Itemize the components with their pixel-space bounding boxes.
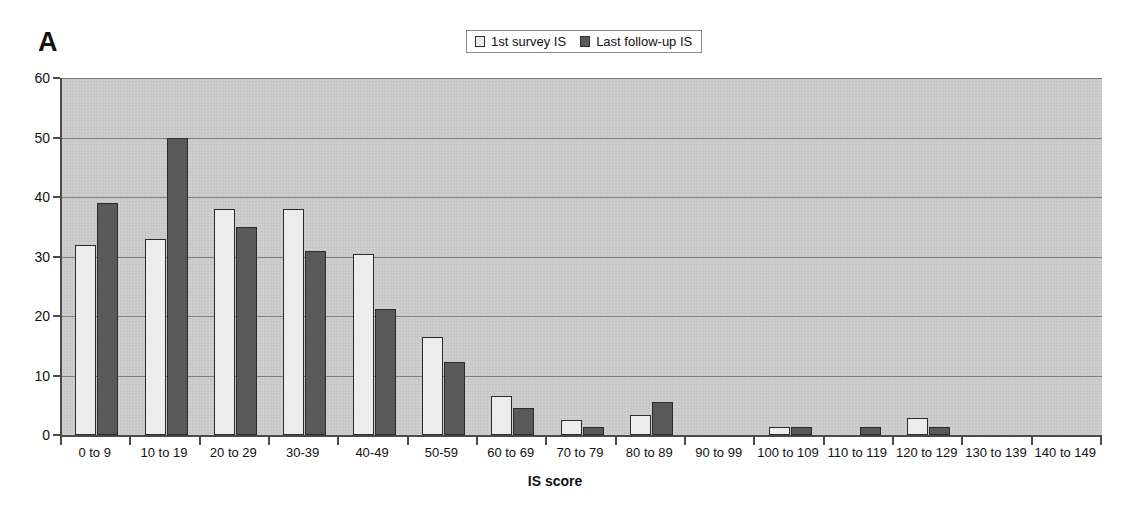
x-tick-mark [1031, 437, 1033, 445]
bar-first-survey [422, 337, 443, 435]
bar-last-followup [513, 408, 534, 435]
bar-first-survey [145, 239, 166, 435]
figure-panel-a: A 1st survey IS Last follow-up IS IS sco… [0, 0, 1131, 518]
bar-last-followup [860, 427, 881, 435]
bar-last-followup [375, 309, 396, 435]
x-tick-label: 30-39 [286, 445, 319, 460]
y-tick-mark [53, 137, 60, 139]
x-tick-label: 140 to 149 [1035, 445, 1096, 460]
x-tick-mark [823, 437, 825, 445]
gridline [62, 197, 1102, 198]
x-tick-mark [615, 437, 617, 445]
x-tick-mark [545, 437, 547, 445]
x-tick-label: 70 to 79 [557, 445, 604, 460]
bar-first-survey [75, 245, 96, 435]
gridline [62, 138, 1102, 139]
x-tick-mark [129, 437, 131, 445]
bar-last-followup [167, 138, 188, 436]
bar-last-followup [97, 203, 118, 435]
x-tick-mark [337, 437, 339, 445]
y-tick-mark [53, 315, 60, 317]
x-tick-label: 130 to 139 [965, 445, 1026, 460]
legend-entry-last-followup: Last follow-up IS [580, 35, 692, 48]
x-tick-label: 0 to 9 [78, 445, 111, 460]
x-tick-mark [684, 437, 686, 445]
x-tick-mark [892, 437, 894, 445]
x-tick-mark [476, 437, 478, 445]
y-tick-mark [53, 196, 60, 198]
legend-entry-first-survey: 1st survey IS [475, 35, 566, 48]
bar-first-survey [630, 415, 651, 435]
x-tick-label: 40-49 [355, 445, 388, 460]
y-tick-mark [53, 77, 60, 79]
y-tick-label: 10 [24, 368, 50, 384]
panel-label: A [38, 27, 58, 58]
x-tick-label: 50-59 [425, 445, 458, 460]
x-tick-label: 60 to 69 [487, 445, 534, 460]
bar-first-survey [283, 209, 304, 435]
bar-first-survey [769, 427, 790, 435]
bar-first-survey [491, 396, 512, 435]
y-tick-mark [53, 434, 60, 436]
x-tick-label: 10 to 19 [141, 445, 188, 460]
bar-last-followup [305, 251, 326, 435]
x-tick-mark [753, 437, 755, 445]
legend-label-first-survey: 1st survey IS [491, 35, 566, 48]
x-tick-mark [60, 437, 62, 445]
x-axis-title: IS score [528, 473, 582, 489]
bar-last-followup [929, 427, 950, 435]
bar-last-followup [583, 427, 604, 435]
legend-swatch-last-followup-icon [580, 36, 590, 47]
bar-last-followup [791, 427, 812, 435]
chart-legend: 1st survey IS Last follow-up IS [466, 30, 702, 53]
x-tick-mark [268, 437, 270, 445]
plot-area [60, 78, 1102, 437]
x-tick-label: 110 to 119 [828, 445, 888, 460]
legend-label-last-followup: Last follow-up IS [596, 35, 692, 48]
bar-last-followup [444, 362, 465, 435]
bar-first-survey [561, 420, 582, 435]
x-tick-label: 100 to 109 [757, 445, 818, 460]
y-tick-label: 60 [24, 70, 50, 86]
bar-first-survey [907, 418, 928, 435]
bar-first-survey [353, 254, 374, 435]
bar-first-survey [214, 209, 235, 435]
x-tick-mark [1100, 437, 1102, 445]
x-tick-mark [961, 437, 963, 445]
x-tick-mark [199, 437, 201, 445]
x-tick-label: 80 to 89 [626, 445, 673, 460]
y-tick-mark [53, 375, 60, 377]
x-tick-mark [407, 437, 409, 445]
y-tick-label: 30 [24, 249, 50, 265]
bar-last-followup [652, 402, 673, 435]
y-tick-mark [53, 256, 60, 258]
bar-last-followup [236, 227, 257, 435]
y-tick-label: 0 [24, 427, 50, 443]
y-tick-label: 50 [24, 130, 50, 146]
x-tick-label: 90 to 99 [695, 445, 742, 460]
legend-swatch-first-survey-icon [475, 36, 485, 47]
y-tick-label: 40 [24, 189, 50, 205]
y-tick-label: 20 [24, 308, 50, 324]
gridline [62, 78, 1102, 79]
x-tick-label: 120 to 129 [896, 445, 957, 460]
x-tick-label: 20 to 29 [210, 445, 257, 460]
